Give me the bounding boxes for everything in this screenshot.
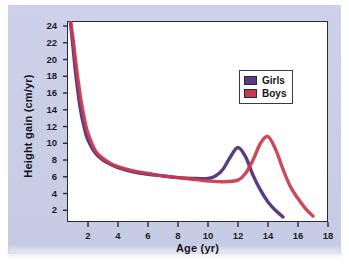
y-tick-2: 2 bbox=[35, 205, 57, 215]
y-tick-12: 12 bbox=[35, 122, 57, 132]
y-tick-10: 10 bbox=[35, 138, 57, 148]
y-tick-18: 18 bbox=[35, 71, 57, 81]
legend-swatch-girls bbox=[244, 76, 257, 85]
series-line-girls bbox=[70, 18, 283, 217]
x-axis-title: Age (yr) bbox=[67, 242, 328, 254]
y-tick-4: 4 bbox=[35, 189, 57, 199]
legend-item-girls[interactable]: Girls bbox=[244, 74, 286, 87]
legend-label-boys: Boys bbox=[262, 89, 286, 99]
legend-label-girls: Girls bbox=[262, 76, 285, 86]
x-tick-6: 6 bbox=[137, 231, 159, 241]
legend-item-boys[interactable]: Boys bbox=[244, 87, 286, 100]
axis-ticks bbox=[63, 26, 328, 227]
y-tick-8: 8 bbox=[35, 155, 57, 165]
x-tick-18: 18 bbox=[317, 231, 339, 241]
x-tick-14: 14 bbox=[257, 231, 279, 241]
y-tick-22: 22 bbox=[35, 38, 57, 48]
y-tick-24: 24 bbox=[35, 21, 57, 31]
x-tick-2: 2 bbox=[77, 231, 99, 241]
y-tick-6: 6 bbox=[35, 172, 57, 182]
chart-figure: 24681012141618202224 24681012141618 Age … bbox=[0, 0, 349, 269]
chart-legend: Girls Boys bbox=[239, 70, 293, 104]
x-tick-16: 16 bbox=[287, 231, 309, 241]
legend-swatch-boys bbox=[244, 89, 257, 98]
data-series-group bbox=[70, 18, 313, 217]
x-tick-4: 4 bbox=[107, 231, 129, 241]
x-tick-12: 12 bbox=[227, 231, 249, 241]
y-axis-title: Height gain (cm/yr) bbox=[22, 51, 34, 201]
x-tick-10: 10 bbox=[197, 231, 219, 241]
y-tick-20: 20 bbox=[35, 55, 57, 65]
x-tick-8: 8 bbox=[167, 231, 189, 241]
y-tick-16: 16 bbox=[35, 88, 57, 98]
y-tick-14: 14 bbox=[35, 105, 57, 115]
series-line-boys bbox=[70, 18, 313, 216]
